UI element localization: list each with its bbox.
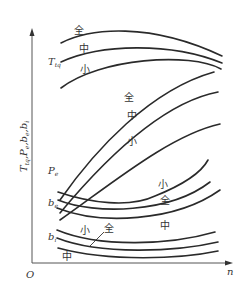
indicated-fuel-consumption-curves: 小 全 中 bi bbox=[48, 222, 218, 262]
power-label-full: 全 bbox=[124, 91, 134, 103]
bi-group-label: bi bbox=[48, 231, 56, 243]
origin-label: O bbox=[26, 269, 34, 280]
power-label-small: 小 bbox=[127, 136, 137, 147]
be-label-full: 全 bbox=[160, 194, 170, 206]
be-label-small: 小 bbox=[158, 179, 168, 190]
bi-label-small: 小 bbox=[80, 225, 90, 236]
torque-label-full: 全 bbox=[74, 24, 84, 36]
torque-group-label: Ttq bbox=[48, 56, 61, 69]
power-curve-small bbox=[60, 124, 220, 220]
effective-fuel-consumption-curves: 小 全 中 be bbox=[48, 160, 220, 231]
power-group-label: Pe bbox=[47, 165, 59, 177]
x-axis-label: n bbox=[227, 266, 233, 277]
power-curve-full bbox=[60, 72, 214, 200]
characteristic-diagram: O n Ttq,Pe,be,bi 全 中 小 Ttq 全 中 小 Pe 小 全 … bbox=[0, 0, 245, 290]
y-axis-arrow-icon bbox=[30, 28, 35, 36]
y-axis-label: Ttq,Pe,be,bi bbox=[18, 121, 31, 172]
bi-label-medium: 中 bbox=[62, 250, 72, 262]
torque-label-medium: 中 bbox=[79, 42, 89, 54]
power-curves: 全 中 小 Pe bbox=[47, 72, 220, 220]
bi-label-full: 全 bbox=[104, 222, 114, 234]
power-curve-medium bbox=[60, 92, 218, 213]
be-group-label: be bbox=[48, 197, 58, 209]
power-label-medium: 中 bbox=[127, 109, 137, 121]
x-axis-arrow-icon bbox=[225, 261, 233, 266]
be-label-medium: 中 bbox=[160, 219, 170, 231]
torque-label-small: 小 bbox=[80, 64, 90, 75]
bi-curve-full bbox=[57, 238, 218, 250]
